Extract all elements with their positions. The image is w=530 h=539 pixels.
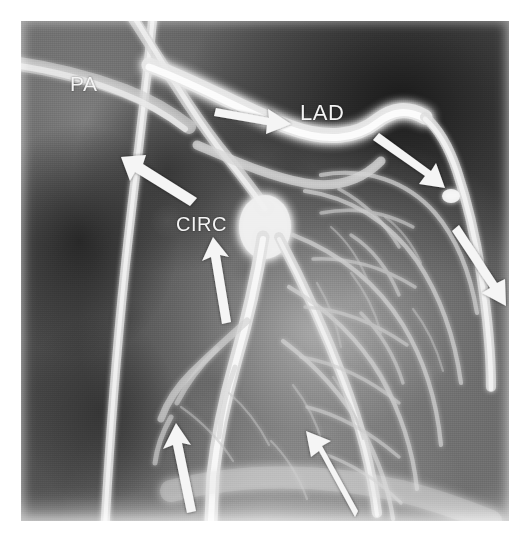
page-margin-bottom (0, 521, 530, 539)
label-pa: PA (70, 72, 97, 96)
arrow-circ-upper (121, 155, 197, 206)
label-lad: LAD (300, 100, 344, 126)
arrow-marginal-right (452, 225, 506, 306)
angiogram-figure: PA LAD CIRC (0, 0, 530, 539)
arrow-lad-distal (373, 133, 445, 188)
label-circ: CIRC (176, 213, 227, 236)
page-margin-left (0, 0, 21, 539)
page-margin-right (509, 0, 530, 539)
arrow-lad-proximal (214, 108, 291, 134)
page-margin-top (0, 0, 530, 21)
arrow-circ-mid (202, 237, 231, 324)
arrow-distal-left (163, 423, 196, 513)
annotation-overlay (21, 21, 509, 521)
arrow-distal-right (306, 431, 358, 517)
radiograph-plate: PA LAD CIRC (21, 21, 509, 521)
